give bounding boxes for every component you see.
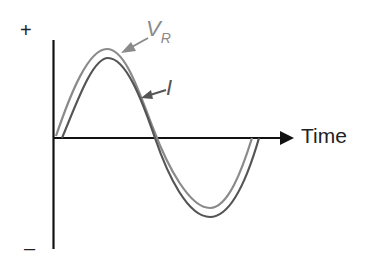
x-axis-arrowhead-icon: [280, 131, 294, 145]
time-axis-label: Time: [301, 125, 347, 146]
current-pointer-arrow-icon: [141, 90, 153, 99]
current-label: I: [166, 77, 172, 99]
vr-pointer-arrow-icon: [121, 42, 136, 53]
vr-label-subscript: R: [161, 30, 171, 46]
negative-label: –: [24, 238, 35, 258]
diagram-canvas: + – Time VR I: [0, 0, 373, 264]
positive-label: +: [20, 20, 32, 40]
vr-label: VR: [146, 18, 171, 43]
vr-label-main: V: [146, 16, 161, 41]
current-pointer-line: [150, 90, 166, 95]
vr-curve: [56, 49, 252, 208]
